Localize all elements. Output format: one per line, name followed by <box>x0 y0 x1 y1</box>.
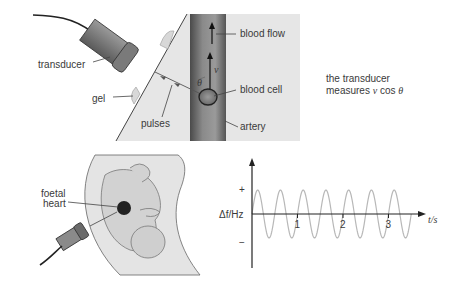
top-diagram: transducer gel pulses blood flow blood c… <box>33 14 300 141</box>
doppler-figure: transducer gel pulses blood flow blood c… <box>0 0 464 286</box>
label-artery: artery <box>240 121 266 132</box>
y-tick-plus: + <box>239 184 245 195</box>
caption-cos: cos <box>377 85 398 96</box>
transducer-cable <box>33 15 92 32</box>
label-theta: θ <box>197 77 202 88</box>
foetal-heart <box>117 201 131 215</box>
transducer-cable <box>40 246 62 265</box>
caption-line-2: measures v cos θ <box>326 85 403 96</box>
leader-line <box>113 96 133 97</box>
foetus-diagram: foetal heart <box>40 155 200 275</box>
label-velocity: v <box>214 64 219 75</box>
x-tick-label: 3 <box>386 219 392 230</box>
label-pulses: pulses <box>141 118 170 129</box>
artery <box>190 14 226 141</box>
caption-theta: θ <box>398 85 403 96</box>
transducer <box>78 18 139 74</box>
label-transducer: transducer <box>38 59 86 70</box>
caption-measures: measures <box>326 85 373 96</box>
x-tick-label: 1 <box>295 219 301 230</box>
x-tick-label: 2 <box>340 219 346 230</box>
y-tick-minus: − <box>239 237 245 248</box>
doppler-shift-chart: 123 + − Δf/Hz t/s <box>219 158 438 268</box>
foetus-head <box>131 226 165 258</box>
x-axis-label: t/s <box>428 214 438 225</box>
label-blood-cell: blood cell <box>240 84 282 95</box>
caption-line-1: the transducer <box>326 73 391 84</box>
label-blood-flow: blood flow <box>240 28 286 39</box>
y-axis-label: Δf/Hz <box>219 209 243 220</box>
y-axis-arrow-icon <box>249 158 255 166</box>
x-axis-arrow-icon <box>418 211 426 217</box>
label-gel: gel <box>92 93 105 104</box>
blood-cell <box>199 89 217 105</box>
label-heart: heart <box>43 198 66 209</box>
